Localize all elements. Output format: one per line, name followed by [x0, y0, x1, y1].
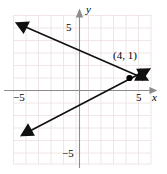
- axis-lines: [4, 10, 156, 168]
- coordinate-plane-svg: [0, 0, 167, 174]
- y-axis-label: y: [86, 4, 91, 15]
- x-axis-positive-tick-label: 5: [136, 92, 142, 103]
- x-axis-negative-tick-label: −5: [13, 92, 25, 103]
- x-axis-label: x: [152, 92, 157, 103]
- y-axis-negative-tick-label: −5: [62, 148, 74, 159]
- intersection-point-label: (4, 1): [113, 50, 137, 61]
- line-descending-arrow-start: [17, 23, 29, 33]
- y-axis-positive-tick-label: 5: [66, 22, 72, 33]
- y-axis-arrow: [77, 10, 83, 17]
- intersection-point-marker: [126, 75, 132, 81]
- grid-lines: [14, 15, 152, 164]
- line-ascending-arrow-start: [22, 125, 34, 136]
- graph-figure: −5 5 x 5 −5 y (4, 1): [0, 0, 167, 174]
